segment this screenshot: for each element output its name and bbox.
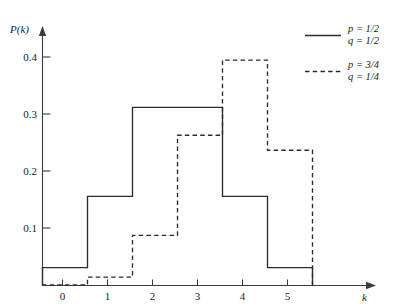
legend-label-solid-q: q = 1/2 xyxy=(348,35,380,46)
x-axis-ticks xyxy=(63,280,288,286)
legend-label-dashed-p: p = 3/4 xyxy=(347,59,380,70)
binomial-distribution-figure: 0.1 0.2 0.3 0.4 P(k) 0 1 2 3 4 5 k xyxy=(0,0,401,308)
x-axis-tick-labels: 0 1 2 3 4 5 xyxy=(60,290,291,302)
x-tick-label-4: 4 xyxy=(240,290,246,302)
legend-entry-solid[interactable]: p = 1/2 q = 1/2 xyxy=(305,23,380,46)
y-axis-title: P(k) xyxy=(9,23,29,36)
y-axis-arrowhead xyxy=(39,26,46,36)
x-axis-title: k xyxy=(362,291,368,303)
x-tick-label-1: 1 xyxy=(105,290,111,302)
y-axis-tick-labels: 0.1 0.2 0.3 0.4 xyxy=(23,51,37,234)
x-tick-label-5: 5 xyxy=(285,290,291,302)
legend-label-dashed-q: q = 1/4 xyxy=(348,71,380,82)
series-step-dashed xyxy=(43,60,313,285)
x-tick-label-2: 2 xyxy=(150,290,156,302)
x-axis xyxy=(43,282,377,289)
y-axis-ticks xyxy=(43,57,51,228)
x-tick-label-0: 0 xyxy=(60,290,66,302)
y-tick-label-3: 0.4 xyxy=(23,51,37,63)
x-tick-label-3: 3 xyxy=(195,290,201,302)
y-axis xyxy=(39,26,46,286)
y-tick-label-2: 0.3 xyxy=(23,108,37,120)
y-tick-label-1: 0.2 xyxy=(23,165,37,177)
legend-label-solid-p: p = 1/2 xyxy=(347,23,380,34)
x-axis-arrowhead xyxy=(366,282,376,289)
legend-entry-dashed[interactable]: p = 3/4 q = 1/4 xyxy=(305,59,380,82)
legend: p = 1/2 q = 1/2 p = 3/4 q = 1/4 xyxy=(305,23,380,82)
y-tick-label-0: 0.1 xyxy=(23,222,37,234)
plot-canvas: 0.1 0.2 0.3 0.4 P(k) 0 1 2 3 4 5 k xyxy=(0,0,401,308)
